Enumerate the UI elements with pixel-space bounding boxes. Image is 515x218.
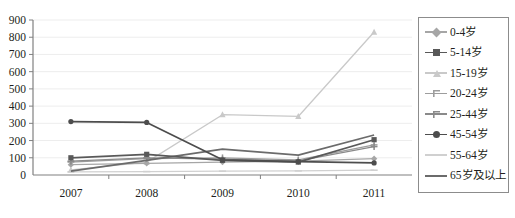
y-axis-tick-label: 900 <box>9 14 27 26</box>
legend-item[interactable]: 55-64岁 <box>419 145 508 166</box>
legend-item[interactable]: 5-14岁 <box>419 43 508 64</box>
y-axis-tick-label: 200 <box>9 135 27 147</box>
x-axis-tick-label: 2009 <box>211 187 234 199</box>
legend-item-label: 25-44岁 <box>450 109 488 121</box>
data-point-marker <box>220 157 225 162</box>
series-15-19岁 <box>68 29 377 173</box>
legend-item[interactable]: 20-24岁 <box>419 84 508 105</box>
data-point-marker <box>144 120 149 125</box>
legend-item[interactable]: 0-4岁 <box>419 22 508 43</box>
legend-asterisk-icon <box>425 108 447 120</box>
chart-screenshot: 0100200300400500600700800900200720082009… <box>0 0 515 218</box>
legend-item[interactable]: 15-19岁 <box>419 63 508 84</box>
legend-item[interactable]: 45-54岁 <box>419 125 508 146</box>
data-point-marker <box>68 119 73 124</box>
legend-circle-icon <box>425 129 447 141</box>
legend-item[interactable]: 65岁及以上 <box>419 166 508 187</box>
legend-item-label: 65岁及以上 <box>450 170 506 182</box>
legend-diamond-icon <box>425 26 447 38</box>
y-axis-tick-label: 300 <box>9 117 27 129</box>
data-point-marker <box>372 137 377 142</box>
legend-none-icon <box>425 170 447 182</box>
series-55-64岁 <box>67 170 377 172</box>
legend-dash-icon <box>425 149 447 161</box>
x-axis-tick-label: 2008 <box>135 187 158 199</box>
y-axis-tick-label: 100 <box>9 152 27 164</box>
legend-item-label: 5-14岁 <box>450 47 482 59</box>
series-45-54岁 <box>68 119 376 166</box>
legend-cross-icon <box>425 88 447 100</box>
data-point-marker <box>296 159 301 164</box>
legend-item-label: 20-24岁 <box>450 88 488 100</box>
data-point-marker <box>372 160 377 165</box>
data-point-marker <box>144 152 149 157</box>
legend-item[interactable]: 25-44岁 <box>419 104 508 125</box>
y-axis-tick-label: 800 <box>9 31 27 43</box>
legend-item-label: 55-64岁 <box>450 150 488 162</box>
y-axis-tick-label: 400 <box>9 100 27 112</box>
legend-triangle-icon <box>425 67 447 79</box>
x-axis-tick-label: 2007 <box>59 187 82 199</box>
legend-square-icon <box>425 47 447 59</box>
legend-item-label: 0-4岁 <box>450 27 476 39</box>
x-axis-tick-label: 2010 <box>287 187 310 199</box>
y-axis-tick-label: 600 <box>9 66 27 78</box>
x-axis-tick-label: 2011 <box>363 187 386 199</box>
legend-item-label: 45-54岁 <box>450 129 488 141</box>
y-axis-tick-label: 700 <box>9 48 27 60</box>
y-axis-tick-label: 0 <box>20 169 26 181</box>
y-axis-tick-label: 500 <box>9 83 27 95</box>
data-point-marker <box>371 29 377 35</box>
legend-item-label: 15-19岁 <box>450 68 488 80</box>
chart-legend: 0-4岁5-14岁15-19岁20-24岁25-44岁45-54岁55-64岁6… <box>418 17 509 193</box>
data-point-marker <box>68 155 73 160</box>
